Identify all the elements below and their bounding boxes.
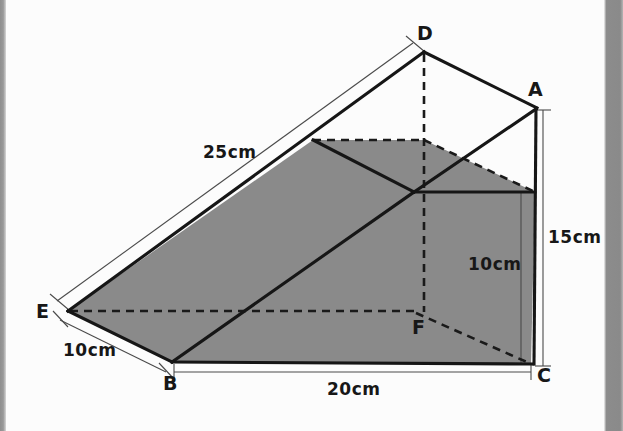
vertex-label-B: B [163,372,177,394]
vertex-label-E: E [36,300,49,322]
vertex-label-F: F [412,316,425,338]
edge-DA [424,52,537,108]
dimension-label-15cm: 15cm [548,227,601,247]
prism-figure [0,0,623,431]
dimension-label-10cm-eb: 10cm [63,340,116,360]
vertex-label-C: C [537,364,551,386]
dimension-label-10cm-inner: 10cm [468,254,521,274]
shaded-faces [68,140,535,364]
dim-tick-10cm-eb-start [53,311,68,327]
dimension-label-25cm: 25cm [203,142,256,162]
edge-AC [534,108,536,364]
diagram-page: A B C D E F 25cm 10cm 20cm 15cm 10cm [0,0,623,431]
vertex-label-D: D [417,22,433,44]
vertex-label-A: A [528,78,543,100]
edge-BC [172,362,533,364]
dimension-label-20cm: 20cm [327,379,380,399]
dim-tick-25cm-start [50,294,69,310]
